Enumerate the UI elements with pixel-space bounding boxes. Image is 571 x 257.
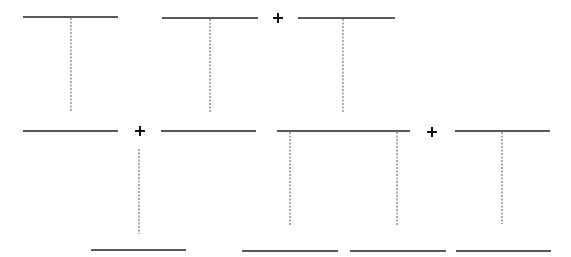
plus-signs — [135, 13, 437, 137]
plus-icon — [427, 127, 437, 137]
dashed-dividers — [71, 18, 502, 234]
t-account-diagram — [0, 0, 571, 257]
plus-icon — [273, 13, 283, 23]
solid-lines — [23, 17, 551, 251]
plus-icon — [135, 126, 145, 136]
